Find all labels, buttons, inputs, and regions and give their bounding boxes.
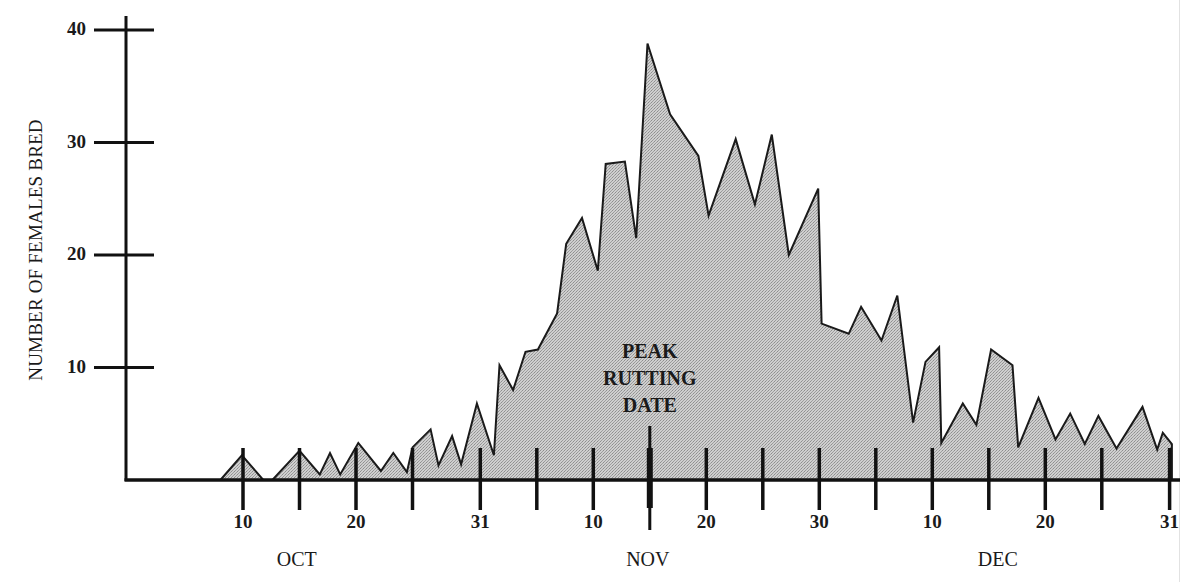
annotation-line: DATE xyxy=(580,392,720,419)
x-tick-label: 10 xyxy=(573,511,613,533)
x-tick-label: 31 xyxy=(1150,511,1190,533)
annotation-line: RUTTING xyxy=(580,365,720,392)
x-tick-label: 20 xyxy=(336,511,376,533)
x-tick-label: 20 xyxy=(1025,511,1065,533)
chart-canvas xyxy=(0,0,1194,582)
annotation-line: PEAK xyxy=(580,338,720,365)
peak-rutting-date-annotation: PEAKRUTTINGDATE xyxy=(580,338,720,419)
month-label-dec: DEC xyxy=(958,548,1038,571)
month-label-nov: NOV xyxy=(608,548,688,571)
x-tick-label: 10 xyxy=(223,511,263,533)
y-tick-label: 30 xyxy=(46,131,86,153)
x-tick-label: 30 xyxy=(799,511,839,533)
month-label-oct: OCT xyxy=(257,548,337,571)
y-tick-label: 40 xyxy=(46,18,86,40)
y-tick-label: 10 xyxy=(46,356,86,378)
x-tick-label: 31 xyxy=(460,511,500,533)
x-tick-label: 10 xyxy=(912,511,952,533)
y-axis-title-text: NUMBER OF FEMALES BRED xyxy=(25,119,47,380)
y-tick-label: 20 xyxy=(46,243,86,265)
x-tick-label: 20 xyxy=(686,511,726,533)
